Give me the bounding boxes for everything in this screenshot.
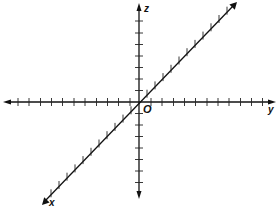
z-axis-label: z bbox=[143, 3, 149, 14]
z-axis-negative-arrow-icon bbox=[137, 191, 142, 199]
y-axis-negative-arrow-icon bbox=[3, 100, 11, 105]
y-axis-label: y bbox=[267, 104, 274, 115]
z-axis-positive-arrow-icon bbox=[137, 3, 142, 11]
coordinate-axes-diagram: y z bbox=[0, 0, 277, 215]
x-axis-label: x bbox=[48, 197, 55, 208]
origin-label: O bbox=[143, 103, 152, 115]
